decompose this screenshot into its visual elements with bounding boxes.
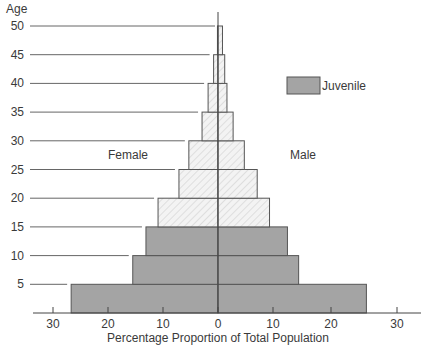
bar-male-0-5 <box>218 284 366 313</box>
x-tick-label: 20 <box>324 317 338 331</box>
x-tick-label: 0 <box>215 317 222 331</box>
bar-female-25-30 <box>189 141 218 170</box>
x-tick-label: 30 <box>46 317 60 331</box>
bar-male-45-50 <box>218 26 222 55</box>
female-label: Female <box>108 148 148 162</box>
legend: Juvenile <box>287 77 366 94</box>
x-tick-label: 20 <box>101 317 115 331</box>
bar-female-15-20 <box>158 198 218 227</box>
x-axis-title: Percentage Proportion of Total Populatio… <box>107 331 329 345</box>
bar-male-40-45 <box>218 55 225 84</box>
y-tick-label: 50 <box>11 19 25 33</box>
y-tick-label: 30 <box>11 134 25 148</box>
y-tick-label: 45 <box>11 48 25 62</box>
bar-male-5-10 <box>218 256 299 285</box>
y-tick-label: 5 <box>17 277 24 291</box>
male-label: Male <box>290 148 316 162</box>
bar-female-30-35 <box>202 112 218 141</box>
y-tick-label: 35 <box>11 105 25 119</box>
bar-female-5-10 <box>133 256 218 285</box>
population-pyramid-chart: 51015202530354045503020100102030 Age Per… <box>0 0 428 352</box>
legend-swatch-juvenile <box>287 77 320 94</box>
bar-female-20-25 <box>179 170 218 199</box>
y-tick-label: 40 <box>11 76 25 90</box>
y-axis-title: Age <box>6 2 28 16</box>
y-tick-label: 10 <box>11 249 25 263</box>
y-tick-label: 15 <box>11 220 25 234</box>
y-tick-label: 25 <box>11 163 25 177</box>
bar-male-30-35 <box>218 112 233 141</box>
x-tick-label: 30 <box>390 317 404 331</box>
bar-male-20-25 <box>218 170 257 199</box>
bar-female-0-5 <box>71 284 218 313</box>
x-tick-label: 10 <box>266 317 280 331</box>
bar-female-10-15 <box>146 227 218 256</box>
bar-male-10-15 <box>218 227 287 256</box>
y-tick-label: 20 <box>11 191 25 205</box>
legend-label-juvenile: Juvenile <box>322 79 366 93</box>
bar-male-15-20 <box>218 198 270 227</box>
x-tick-label: 10 <box>156 317 170 331</box>
bar-male-25-30 <box>218 141 244 170</box>
bar-female-35-40 <box>208 83 218 112</box>
bar-female-40-45 <box>214 55 218 84</box>
bar-male-35-40 <box>218 83 227 112</box>
